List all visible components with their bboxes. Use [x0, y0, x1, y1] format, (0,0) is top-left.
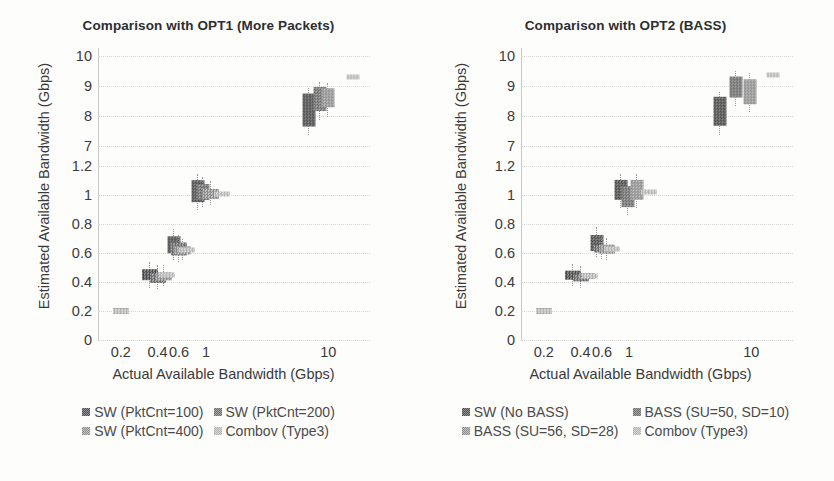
- y-axis-tick-label: 1.2: [72, 158, 92, 174]
- y-axis-tick-label: 0.6: [72, 245, 92, 261]
- grid-line: [98, 195, 370, 196]
- legend-item[interactable]: SW (PktCnt=400): [82, 423, 203, 439]
- legend-label: Combov (Type3): [226, 423, 329, 439]
- y-axis-tick-label: 10: [499, 48, 515, 64]
- y-axis-tick-label: 8: [507, 108, 515, 124]
- legend-swatch-icon: [82, 408, 90, 416]
- x-axis-tick-label: 10: [320, 344, 336, 360]
- y-axis-tick-label: 9: [84, 78, 92, 94]
- data-point-cluster: [641, 190, 657, 195]
- y-axis-tick-label: 1: [507, 187, 515, 203]
- x-axis-tick-label: 1: [625, 344, 633, 360]
- grid-line: [98, 166, 370, 167]
- x-axis-title-right: Actual Available Bandwidth (Gbps): [457, 366, 824, 382]
- legend-swatch-icon: [214, 408, 222, 416]
- legend-swatch-icon: [633, 408, 641, 416]
- grid-line: [521, 146, 793, 147]
- grid-line: [98, 224, 370, 225]
- legend-label: SW (PktCnt=400): [94, 423, 203, 439]
- x-axis-tick-label: 1: [202, 344, 210, 360]
- figure-canvas: Comparison with OPT1 (More Packets) Esti…: [0, 0, 834, 481]
- legend-swatch-icon: [214, 427, 222, 435]
- y-axis-tick-label: 0.6: [495, 245, 515, 261]
- data-point-cluster: [729, 77, 742, 98]
- data-point-cluster: [766, 73, 779, 78]
- legend-item[interactable]: SW (No BASS): [462, 404, 619, 420]
- legend-item[interactable]: BASS (SU=56, SD=28): [462, 423, 619, 439]
- y-axis-tick-label: 1: [84, 187, 92, 203]
- data-point-cluster: [713, 97, 726, 125]
- y-axis-tick-label: 7: [507, 138, 515, 154]
- y-axis-tick-label: 7: [84, 138, 92, 154]
- y-axis-tick-label: 0: [507, 332, 515, 348]
- chart-panel-left: Comparison with OPT1 (More Packets) Esti…: [0, 0, 417, 481]
- legend-label: BASS (SU=50, SD=10): [645, 404, 790, 420]
- x-axis-tick-label: 10: [743, 344, 759, 360]
- x-axis-tick-label: 0.4: [570, 344, 590, 360]
- grid-line: [521, 282, 793, 283]
- grid-line: [521, 166, 793, 167]
- grid-line: [521, 224, 793, 225]
- legend-label: SW (PktCnt=200): [226, 404, 335, 420]
- legend-item[interactable]: BASS (SU=50, SD=10): [633, 404, 790, 420]
- y-axis-tick-label: 0.2: [495, 303, 515, 319]
- legend-swatch-icon: [82, 427, 90, 435]
- y-axis-tick-label: 0: [84, 332, 92, 348]
- grid-line: [98, 146, 370, 147]
- legend-swatch-icon: [462, 427, 470, 435]
- chart-title-left: Comparison with OPT1 (More Packets): [0, 18, 417, 33]
- data-point-cluster: [214, 191, 230, 196]
- y-axis-tick-label: 0.8: [495, 216, 515, 232]
- grid-line: [98, 282, 370, 283]
- y-axis-tick-label: 1.2: [495, 158, 515, 174]
- data-point-cluster: [347, 74, 360, 79]
- legend-label: SW (No BASS): [474, 404, 569, 420]
- legend-right: SW (No BASS) BASS (SU=50, SD=10) BASS (S…: [417, 404, 834, 439]
- y-axis-tick-label: 9: [507, 78, 515, 94]
- x-axis-tick-label: 0.2: [111, 344, 131, 360]
- y-axis-tick-label: 0.4: [495, 274, 515, 290]
- data-point-cluster: [604, 246, 620, 251]
- y-axis-title-right: Estimated Available Bandwidth (Gbps): [453, 46, 469, 326]
- grid-line: [521, 116, 793, 117]
- data-point-cluster: [322, 88, 335, 107]
- x-axis-tick-label: 0.2: [534, 344, 554, 360]
- data-point-cluster: [179, 248, 195, 253]
- data-point-cluster: [582, 274, 598, 279]
- legend-left: SW (PktCnt=100) SW (PktCnt=200) SW (PktC…: [0, 404, 417, 439]
- grid-line: [98, 340, 370, 341]
- chart-panel-right: Comparison with OPT2 (BASS) Estimated Av…: [417, 0, 834, 481]
- legend-label: Combov (Type3): [645, 423, 748, 439]
- legend-item[interactable]: Combov (Type3): [214, 423, 335, 439]
- grid-line: [98, 56, 370, 57]
- x-axis-tick-label: 0.6: [169, 344, 189, 360]
- chart-title-right: Comparison with OPT2 (BASS): [417, 18, 834, 33]
- plot-area-left: 00.20.40.60.811.2789100.20.40.6110: [98, 48, 370, 340]
- plot-area-right: 00.20.40.60.811.2789100.20.40.6110: [521, 48, 793, 340]
- grid-line: [521, 195, 793, 196]
- legend-item[interactable]: SW (PktCnt=100): [82, 404, 203, 420]
- data-point-cluster: [113, 309, 129, 314]
- grid-line: [521, 311, 793, 312]
- grid-line: [521, 340, 793, 341]
- y-axis-title-left: Estimated Available Bandwidth (Gbps): [36, 46, 52, 326]
- legend-swatch-icon: [633, 427, 641, 435]
- grid-line: [521, 253, 793, 254]
- x-axis-tick-label: 0.4: [147, 344, 167, 360]
- legend-item[interactable]: Combov (Type3): [633, 423, 790, 439]
- y-axis-tick-label: 0.4: [72, 274, 92, 290]
- y-axis-line-right: [521, 48, 522, 340]
- y-axis-tick-label: 8: [84, 108, 92, 124]
- legend-label: SW (PktCnt=100): [94, 404, 203, 420]
- legend-item[interactable]: SW (PktCnt=200): [214, 404, 335, 420]
- y-axis-tick-label: 0.2: [72, 303, 92, 319]
- legend-swatch-icon: [462, 408, 470, 416]
- y-axis-line-left: [98, 48, 99, 340]
- grid-line: [521, 56, 793, 57]
- data-point-cluster: [536, 309, 552, 314]
- legend-label: BASS (SU=56, SD=28): [474, 423, 619, 439]
- grid-line: [98, 253, 370, 254]
- x-axis-title-left: Actual Available Bandwidth (Gbps): [40, 366, 407, 382]
- data-point-cluster: [159, 272, 175, 277]
- x-axis-tick-label: 0.6: [592, 344, 612, 360]
